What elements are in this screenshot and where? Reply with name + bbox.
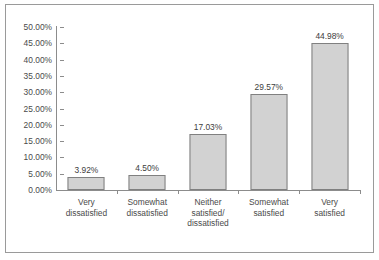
y-axis-tick-label: 40.00% xyxy=(10,56,52,64)
bar-value-label: 44.98% xyxy=(315,32,343,41)
x-axis-category-label: Somewhat dissatisfied xyxy=(117,197,178,218)
x-axis-line xyxy=(56,190,361,191)
plot-area: 3.92%4.50%17.03%29.57%44.98% xyxy=(56,27,360,190)
y-axis-tick-label: 15.00% xyxy=(10,137,52,145)
y-axis-tick-label: 35.00% xyxy=(10,72,52,80)
bar-slot: 44.98% xyxy=(299,27,360,190)
bar[interactable] xyxy=(250,94,287,190)
bar-slot: 17.03% xyxy=(178,27,239,190)
x-axis-tick-mark xyxy=(178,190,179,194)
bar-slot: 29.57% xyxy=(238,27,299,190)
x-axis-tick-mark xyxy=(299,190,300,194)
y-axis-tick-label: 30.00% xyxy=(10,88,52,96)
bar-value-label: 4.50% xyxy=(135,164,159,173)
x-axis-category-label: Very satisfied xyxy=(299,197,360,218)
y-axis-tick-label: 50.00% xyxy=(10,23,52,31)
y-axis-tick-label: 20.00% xyxy=(10,121,52,129)
y-axis-tick-label: 5.00% xyxy=(10,170,52,178)
x-axis-tick-mark xyxy=(360,190,361,194)
bar-value-label: 29.57% xyxy=(255,83,283,92)
x-axis-category-label: Somewhat satisfied xyxy=(238,197,299,218)
bar[interactable] xyxy=(311,43,348,190)
bar[interactable] xyxy=(189,134,226,190)
y-axis-tick-label: 10.00% xyxy=(10,153,52,161)
y-axis-tick-label: 25.00% xyxy=(10,105,52,113)
y-axis-tick-label: 45.00% xyxy=(10,39,52,47)
x-axis-category-label: Very dissatisfied xyxy=(56,197,117,218)
bar[interactable] xyxy=(129,175,166,190)
bar[interactable] xyxy=(68,177,105,190)
x-axis-tick-mark xyxy=(117,190,118,194)
y-axis-tick-label: 0.00% xyxy=(10,186,52,194)
bar-slot: 3.92% xyxy=(56,27,117,190)
x-axis-category-label: Neither satisfied/ dissatisfied xyxy=(178,197,239,229)
x-axis-tick-mark xyxy=(238,190,239,194)
y-axis-labels: 0.00%5.00%10.00%15.00%20.00%25.00%30.00%… xyxy=(8,0,52,260)
bar-value-label: 17.03% xyxy=(194,123,222,132)
bar-slot: 4.50% xyxy=(117,27,178,190)
bar-value-label: 3.92% xyxy=(75,166,99,175)
